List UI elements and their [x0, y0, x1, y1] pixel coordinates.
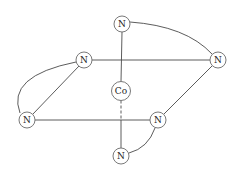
atom-n-lower-left: N	[19, 112, 35, 128]
atom-co-center: Co	[112, 82, 131, 101]
atom-label: N	[23, 115, 31, 125]
atom-label: N	[117, 151, 125, 161]
atom-n-top: N	[114, 16, 130, 32]
atom-n-bottom: N	[113, 148, 129, 164]
atom-n-upper-left: N	[76, 52, 92, 68]
atom-label: N	[80, 55, 88, 65]
coordination-complex-diagram: Co N N N N N N	[0, 0, 239, 174]
chelate-arc-top-right	[130, 22, 212, 54]
atom-n-right: N	[210, 52, 226, 68]
atom-label: N	[154, 115, 162, 125]
bond-top-to-co	[121, 32, 122, 82]
atom-label: N	[214, 55, 222, 65]
chelate-arc-bottom-right	[129, 128, 155, 153]
atom-label: Co	[115, 86, 127, 96]
atom-label: N	[118, 19, 126, 29]
bond-right-to-mid-right	[164, 66, 212, 114]
chelate-arc-left	[18, 62, 76, 113]
atom-n-mid-right: N	[150, 112, 166, 128]
